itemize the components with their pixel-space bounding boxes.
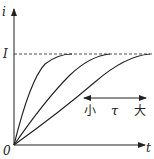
curve-small-tau xyxy=(14,54,72,145)
level-label: I xyxy=(2,47,8,61)
tau-large-label: 大 xyxy=(134,104,146,118)
tau-symbol-label: τ xyxy=(111,103,119,118)
curve-large-tau xyxy=(14,54,150,145)
y-axis-label: i xyxy=(2,5,6,19)
rl-current-diagram: i t 0 I 小 τ 大 xyxy=(0,0,154,159)
x-axis-label: t xyxy=(146,141,151,155)
origin-label: 0 xyxy=(3,144,11,158)
curve-medium-tau xyxy=(14,54,110,145)
tau-small-label: 小 xyxy=(84,104,96,118)
